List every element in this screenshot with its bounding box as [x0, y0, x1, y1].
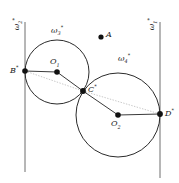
- segment-o2-d: [118, 114, 160, 115]
- geometry-figure: ω2* ω1* ω3* ω4* A B* O1 C* O2 D*: [0, 0, 179, 183]
- point-b-dot: [22, 68, 28, 74]
- center-o2-label: O2: [111, 120, 121, 130]
- chord-c-d-dotted: [83, 91, 160, 114]
- chord-b-c-dotted: [25, 71, 83, 91]
- point-d-dot: [157, 111, 163, 117]
- point-c-dot: [80, 88, 86, 94]
- center-o1-label: O1: [50, 58, 60, 68]
- point-a-label: A: [106, 31, 112, 39]
- point-c-label: C*: [88, 84, 97, 94]
- segment-c-o2: [83, 91, 118, 115]
- omega2-label: ω2*: [12, 18, 23, 30]
- segment-b-o1: [25, 71, 57, 72]
- omega1-label: ω1*: [147, 18, 158, 30]
- segment-o1-c: [57, 72, 83, 91]
- omega4-label: ω4*: [118, 53, 130, 64]
- omega3-label: ω3*: [51, 25, 63, 36]
- point-a-dot: [98, 34, 103, 39]
- point-o1-dot: [54, 69, 60, 75]
- point-o2-dot: [115, 112, 121, 118]
- point-d-label: D*: [165, 108, 174, 118]
- point-b-label: B*: [10, 65, 18, 75]
